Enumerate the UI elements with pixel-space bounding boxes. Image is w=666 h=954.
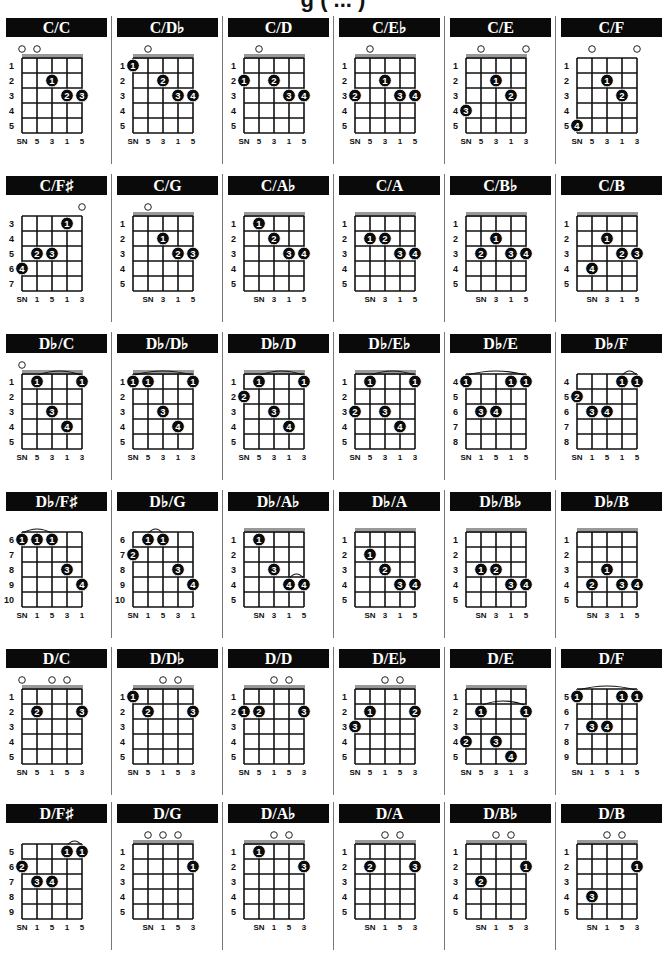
svg-text:4: 4 [301, 248, 307, 259]
svg-text:1: 1 [493, 233, 499, 244]
open-string-icon [286, 677, 293, 684]
string-label: 3 [80, 295, 85, 304]
chord-name: D♭/C [6, 334, 107, 353]
chord-name: C/F♯ [6, 176, 107, 195]
svg-text:2: 2 [478, 248, 483, 259]
string-label: SN [349, 137, 360, 146]
svg-text:2: 2 [271, 75, 276, 86]
string-label: 5 [50, 923, 55, 932]
finger-dot: 3 [187, 247, 200, 260]
svg-text:3: 3 [301, 706, 306, 717]
svg-text:3: 3 [589, 721, 594, 732]
fret-number: 3 [231, 877, 236, 887]
fretboard: 12345123SN315 [111, 196, 222, 326]
string-label: 5 [302, 137, 307, 146]
finger-dot: 2 [268, 232, 281, 245]
finger-dot: 1 [364, 232, 377, 245]
string-label: 1 [176, 137, 181, 146]
string-label: 5 [257, 768, 262, 777]
fret-number: 7 [453, 422, 458, 432]
finger-dot: 1 [571, 690, 584, 703]
finger-dot: 3 [394, 247, 407, 260]
fret-number: 2 [120, 707, 125, 717]
fretboard: 123451234SN315 [222, 196, 333, 326]
fretboard: 123451234SN315 [555, 512, 666, 642]
fret-number: 1 [231, 847, 236, 857]
fret-number: 6 [9, 862, 14, 872]
svg-text:1: 1 [34, 376, 40, 387]
string-label: SN [475, 923, 486, 932]
chord-diagram: C/B♭123451234SN315 [444, 172, 555, 330]
fret-number: 3 [564, 877, 569, 887]
string-label: SN [142, 295, 153, 304]
svg-text:4: 4 [604, 721, 610, 732]
svg-text:2: 2 [175, 248, 180, 259]
fret-number: 1 [120, 692, 125, 702]
fret-number: 8 [9, 892, 14, 902]
fretboard: 1234513SN153 [222, 824, 333, 954]
finger-dot: 1 [253, 375, 266, 388]
svg-text:1: 1 [619, 691, 625, 702]
string-label: 1 [398, 453, 403, 462]
open-string-icon [256, 46, 263, 53]
string-label: 3 [605, 137, 610, 146]
fret-number: 5 [231, 437, 236, 447]
fret-number: 4 [120, 892, 125, 902]
chord-name: D♭/G [117, 492, 218, 511]
string-label: 3 [80, 768, 85, 777]
fret-number: 4 [342, 892, 347, 902]
fret-number: 4 [453, 892, 458, 902]
svg-text:2: 2 [508, 90, 513, 101]
string-label: SN [16, 768, 27, 777]
svg-text:4: 4 [49, 876, 55, 887]
fretboard: 345671234SN1513 [0, 196, 111, 326]
string-label: 1 [383, 768, 388, 777]
string-label: 1 [509, 611, 514, 620]
open-string-icon [619, 832, 626, 839]
fret-number: 2 [342, 707, 347, 717]
string-label: 5 [287, 768, 292, 777]
svg-text:4: 4 [412, 248, 418, 259]
string-label: 5 [635, 768, 640, 777]
string-label: 3 [605, 611, 610, 620]
string-label: 3 [494, 137, 499, 146]
fret-number: 3 [9, 722, 14, 732]
string-label: 1 [287, 611, 292, 620]
fret-number: 3 [231, 407, 236, 417]
chord-diagram: C/F12345412SN5313 [555, 14, 666, 172]
fret-number: 5 [231, 279, 236, 289]
string-label: 5 [191, 295, 196, 304]
fret-number: 1 [342, 535, 347, 545]
finger-dot: 1 [76, 375, 89, 388]
fret-number: 4 [453, 737, 458, 747]
string-label: 1 [287, 137, 292, 146]
string-label: 5 [479, 137, 484, 146]
fretboard: 123451234SN315 [444, 512, 555, 642]
finger-dot: 1 [490, 74, 503, 87]
fret-number: 5 [9, 121, 14, 131]
string-label: 3 [605, 295, 610, 304]
string-label: 1 [191, 611, 196, 620]
fret-number: 2 [120, 862, 125, 872]
svg-text:1: 1 [19, 534, 25, 545]
fretboard: 123451134SN5313 [0, 354, 111, 484]
string-label: 5 [146, 137, 151, 146]
finger-dot: 3 [586, 890, 599, 903]
open-string-icon [19, 362, 26, 369]
finger-dot: 3 [505, 578, 518, 591]
chord-diagram: D/D12345123SN5153 [222, 645, 333, 803]
fret-number: 4 [231, 422, 236, 432]
fret-number: 5 [342, 121, 347, 131]
fret-number: 1 [231, 61, 236, 71]
finger-dot: 1 [127, 375, 140, 388]
fret-number: 4 [564, 106, 569, 116]
svg-text:3: 3 [397, 90, 402, 101]
finger-dot: 3 [586, 720, 599, 733]
fret-number: 2 [453, 234, 458, 244]
fret-number: 3 [231, 249, 236, 259]
svg-text:1: 1 [145, 376, 151, 387]
chord-name: D/F♯ [6, 804, 107, 823]
svg-text:3: 3 [271, 406, 276, 417]
finger-dot: 1 [616, 375, 629, 388]
fret-number: 5 [564, 392, 569, 402]
